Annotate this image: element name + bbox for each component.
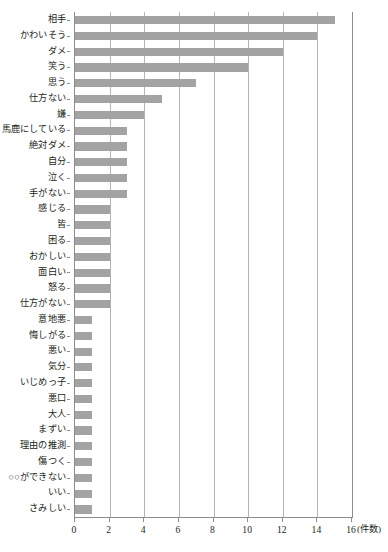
bar-row [75, 217, 352, 233]
y-axis-label: 悔しがる [0, 328, 70, 344]
y-axis-label: かわいそう [0, 28, 70, 44]
y-axis-tick [67, 272, 70, 273]
x-axis-tick-label: 14 [312, 523, 322, 536]
y-axis-label: いじめっ子 [0, 375, 70, 391]
bar [75, 174, 127, 182]
bar-row [75, 407, 352, 423]
bar-row [75, 75, 352, 91]
bar [75, 269, 110, 277]
bar [75, 300, 110, 308]
y-axis-tick [67, 478, 70, 479]
y-axis-label: 悪口 [0, 391, 70, 407]
y-axis-tick [67, 146, 70, 147]
bar-row [75, 328, 352, 344]
x-axis-tick-label: 8 [210, 523, 215, 536]
y-axis-tick [67, 20, 70, 21]
y-axis-label: 仕方ない [0, 91, 70, 107]
bar [75, 237, 110, 245]
bar [75, 284, 110, 292]
y-axis-tick [67, 225, 70, 226]
bar-row [75, 233, 352, 249]
y-axis-category-labels: 相手かわいそうダメ笑う思う仕方ない嫌馬鹿にしている絶対ダメ自分泣く手がない感じる… [0, 12, 70, 517]
y-axis-tick [67, 288, 70, 289]
bar [75, 142, 127, 150]
x-axis-tick-10 [247, 517, 248, 522]
y-axis-label: 絶対ダメ [0, 138, 70, 154]
bar-row [75, 107, 352, 123]
y-axis-label: 相手 [0, 12, 70, 28]
x-axis-tick-4 [143, 517, 144, 522]
bar-row [75, 122, 352, 138]
y-axis-label: 気分 [0, 359, 70, 375]
bar-row [75, 296, 352, 312]
x-axis-unit-label: (件数) [357, 523, 381, 536]
y-axis-tick [67, 67, 70, 68]
bar [75, 363, 92, 371]
bar [75, 332, 92, 340]
x-axis-tick-0 [74, 517, 75, 522]
y-axis-tick [67, 509, 70, 510]
bar [75, 379, 92, 387]
y-axis-label: いい [0, 485, 70, 501]
y-axis-tick [67, 130, 70, 131]
bar [75, 253, 110, 261]
bar [75, 411, 92, 419]
y-axis-label: 泣く [0, 170, 70, 186]
bar-row [75, 501, 352, 517]
bar [75, 190, 127, 198]
bar-row [75, 201, 352, 217]
y-axis-label: ダメ [0, 44, 70, 60]
bar-rows [75, 12, 352, 517]
x-axis-tick-label: 2 [106, 523, 111, 536]
bar-row [75, 359, 352, 375]
y-axis-label: 思う [0, 75, 70, 91]
y-axis-label: 手がない [0, 186, 70, 202]
bar-row [75, 485, 352, 501]
bar-row [75, 91, 352, 107]
y-axis-label: 馬鹿にしている [0, 122, 70, 138]
y-axis-tick [67, 367, 70, 368]
y-axis-label: 理由の推測 [0, 438, 70, 454]
bar [75, 348, 92, 356]
y-axis-label: 意地悪 [0, 312, 70, 328]
x-axis-tick-label: 4 [141, 523, 146, 536]
bar [75, 79, 196, 87]
y-axis-tick [67, 336, 70, 337]
bar-row [75, 265, 352, 281]
x-axis-tick-16 [351, 517, 352, 522]
y-axis-label: 大人 [0, 407, 70, 423]
y-axis-tick [67, 241, 70, 242]
x-axis-tick-label: 10 [242, 523, 252, 536]
bar-row [75, 28, 352, 44]
bar [75, 490, 92, 498]
y-axis-tick [67, 383, 70, 384]
y-axis-label: ○○ができない [0, 470, 70, 486]
y-axis-label: 怒る [0, 280, 70, 296]
x-axis-tick-2 [109, 517, 110, 522]
y-axis-tick [67, 209, 70, 210]
bar [75, 16, 335, 24]
bar-row [75, 249, 352, 265]
y-axis-tick [67, 399, 70, 400]
bar-row [75, 470, 352, 486]
y-axis-tick [67, 304, 70, 305]
bar [75, 426, 92, 434]
bar [75, 316, 92, 324]
y-axis-tick [67, 351, 70, 352]
bar-row [75, 375, 352, 391]
x-axis-tick-label: 6 [175, 523, 180, 536]
x-axis-tick-label: 16 [346, 523, 356, 536]
bar [75, 458, 92, 466]
bar-row [75, 138, 352, 154]
y-axis-label: 嫌 [0, 107, 70, 123]
y-axis-label: 感じる [0, 201, 70, 217]
y-axis-label: 自分 [0, 154, 70, 170]
y-axis-tick [67, 320, 70, 321]
bar-row [75, 280, 352, 296]
y-axis-label: 面白い [0, 265, 70, 281]
bar [75, 474, 92, 482]
bar [75, 505, 92, 513]
bar-row [75, 59, 352, 75]
y-axis-tick [67, 51, 70, 52]
bar [75, 158, 127, 166]
